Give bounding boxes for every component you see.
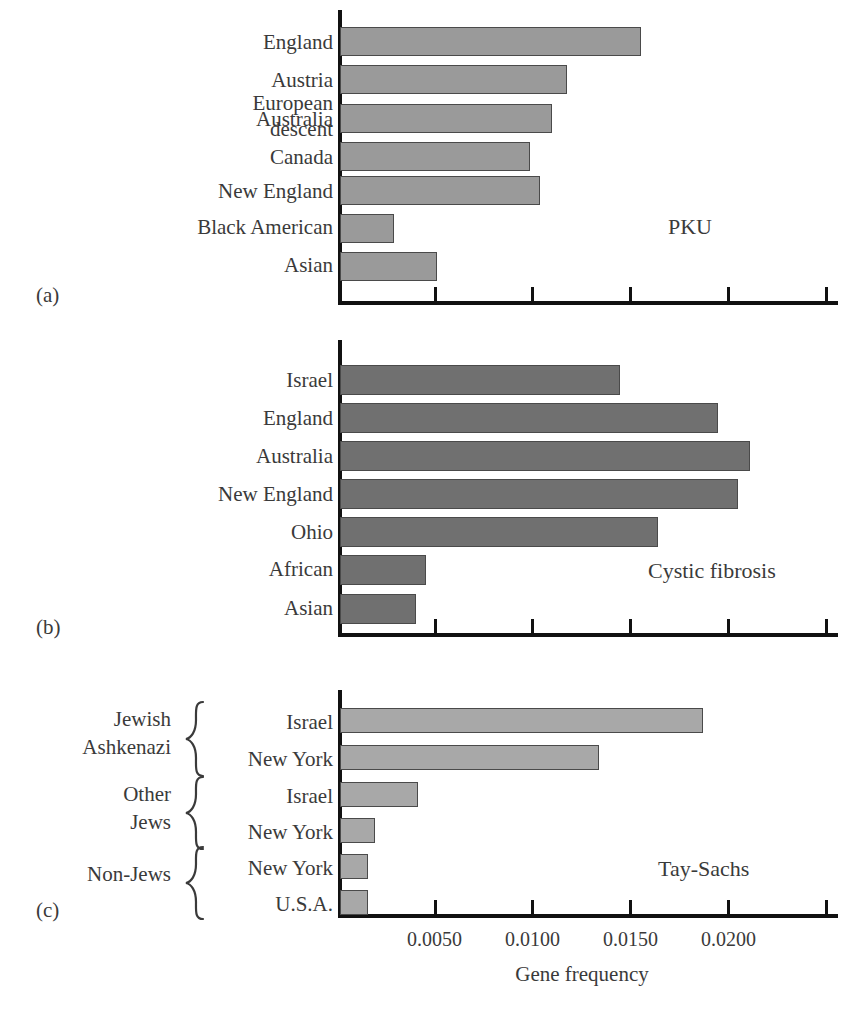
- cat-label-ts-usa-non-jews: U.S.A.: [275, 893, 333, 915]
- brace-jewish-ashkenazi: [183, 700, 209, 778]
- bar-ts-israel-ashkenazi: [340, 708, 703, 733]
- cat-label-ts-israel-other: Israel: [286, 785, 333, 807]
- panel-c-tick-3: [629, 900, 632, 915]
- bar-ts-usa-non-jews: [340, 890, 368, 915]
- group-label-jewish-ashkenazi: Jewish Ashkenazi: [82, 705, 171, 761]
- group-label-other-jews: Other Jews: [123, 780, 171, 836]
- cat-label-ts-new-york-other: New York: [248, 821, 333, 843]
- panel-c-tick-1: [434, 900, 437, 915]
- panel-c-tay-sachs: Israel New York Israel New York New York…: [0, 0, 861, 1017]
- bar-ts-new-york-ashkenazi: [340, 745, 599, 770]
- group-label-non-jews: Non-Jews: [87, 862, 171, 887]
- group-label-other-jews-line2: Jews: [123, 808, 171, 836]
- panel-c-tick-4: [727, 900, 730, 915]
- bar-ts-new-york-non-jews: [340, 854, 368, 879]
- x-tick-label-0150: 0.0150: [582, 928, 679, 951]
- cat-label-ts-israel-ashkenazi: Israel: [286, 711, 333, 733]
- x-tick-label-0200: 0.0200: [680, 928, 777, 951]
- bar-ts-new-york-other-jews: [340, 818, 375, 843]
- cat-label-ts-new-york-non-jews: New York: [248, 857, 333, 879]
- gene-frequency-figure: England Austria Australia Canada New Eng…: [0, 0, 861, 1017]
- panel-c-tick-2: [531, 900, 534, 915]
- panel-c-x-axis: [338, 914, 838, 918]
- x-tick-label-0100: 0.0100: [484, 928, 581, 951]
- disease-title-tay-sachs: Tay-Sachs: [658, 856, 749, 882]
- panel-c-tick-5: [825, 900, 828, 915]
- group-label-jewish-ashkenazi-line2: Ashkenazi: [82, 733, 171, 761]
- panel-letter-c: (c): [36, 898, 59, 923]
- group-label-jewish-ashkenazi-line1: Jewish: [82, 705, 171, 733]
- brace-non-jews: [183, 845, 209, 921]
- bar-ts-israel-other-jews: [340, 782, 418, 807]
- group-label-other-jews-line1: Other: [123, 780, 171, 808]
- x-tick-label-0050: 0.0050: [386, 928, 483, 951]
- brace-other-jews: [183, 775, 209, 851]
- cat-label-ts-new-york-ashkenazi: New York: [248, 748, 333, 770]
- x-axis-title: Gene frequency: [452, 962, 712, 987]
